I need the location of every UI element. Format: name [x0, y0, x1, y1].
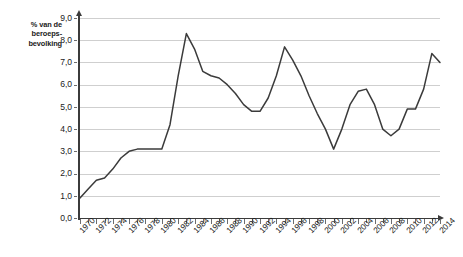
y-tick-label: 8,0 [46, 35, 72, 45]
y-tick-label: 5,0 [46, 102, 72, 112]
y-tick-mark [74, 107, 77, 108]
y-tick-mark [74, 18, 77, 19]
y-tick-label: 2,0 [46, 168, 72, 178]
y-tick-mark [74, 85, 77, 86]
series-line-unemployment [80, 34, 440, 198]
y-tick-label: 9,0 [46, 13, 72, 23]
chart-screenshot: % van de beroeps- bevolking 9,08,07,06,0… [0, 0, 463, 257]
y-tick-mark [74, 62, 77, 63]
y-tick-label: 0,0 [46, 213, 72, 223]
y-tick-mark [74, 174, 77, 175]
y-tick-mark [74, 151, 77, 152]
y-tick-mark [74, 40, 77, 41]
y-tick-label: 6,0 [46, 79, 72, 89]
y-tick-label: 7,0 [46, 57, 72, 67]
y-tick-label: 4,0 [46, 124, 72, 134]
y-tick-label: 3,0 [46, 146, 72, 156]
y-tick-mark [74, 129, 77, 130]
y-tick-mark [74, 218, 77, 219]
y-tick-label: 1,0 [46, 191, 72, 201]
y-tick-mark [74, 196, 77, 197]
